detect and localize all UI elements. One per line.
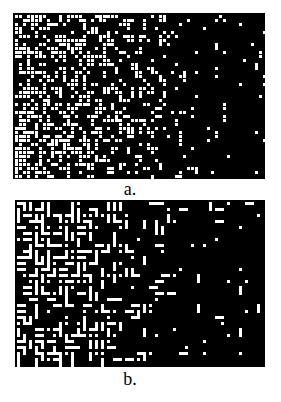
- dash-texture-b: [15, 200, 265, 367]
- dot-texture-a: [13, 13, 265, 179]
- texture-panel-a: [13, 13, 265, 179]
- panel-label-b: b.: [100, 370, 160, 388]
- texture-panel-b: [15, 200, 265, 367]
- panel-label-a: a.: [100, 180, 160, 198]
